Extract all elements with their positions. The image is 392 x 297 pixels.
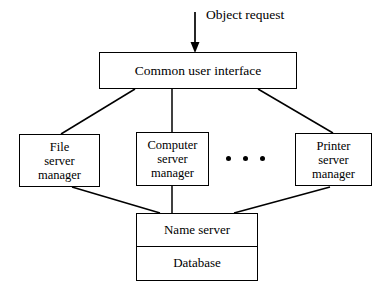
- node-computer-server-manager-line1: Computer: [148, 138, 198, 152]
- node-database[interactable]: Database: [137, 247, 257, 280]
- node-common-user-interface[interactable]: Common user interface: [99, 52, 297, 89]
- edge-interface-to-file-manager: [61, 89, 135, 134]
- node-computer-server-manager-line2: server: [157, 152, 188, 166]
- node-file-server-manager[interactable]: File server manager: [19, 134, 100, 187]
- node-file-server-manager-line1: File: [50, 140, 69, 154]
- ellipsis-dot-2: [243, 156, 248, 161]
- node-computer-server-manager[interactable]: Computer server manager: [136, 132, 209, 186]
- ellipsis-dot-3: [260, 156, 265, 161]
- object-request-label: Object request: [206, 7, 284, 23]
- ellipsis-dot-1: [226, 156, 231, 161]
- edge-printer-manager-to-name-server: [234, 187, 330, 213]
- node-name-server-stack[interactable]: Name server Database: [136, 213, 258, 281]
- node-name-server-label: Name server: [164, 223, 230, 238]
- node-common-user-interface-label: Common user interface: [135, 63, 262, 78]
- node-name-server[interactable]: Name server: [137, 214, 257, 247]
- node-printer-server-manager-line1: Printer: [316, 139, 350, 153]
- edge-interface-to-printer-manager: [258, 89, 333, 133]
- node-printer-server-manager-line2: server: [318, 153, 349, 167]
- node-computer-server-manager-line3: manager: [151, 166, 194, 180]
- node-file-server-manager-line2: server: [44, 154, 75, 168]
- node-printer-server-manager[interactable]: Printer server manager: [295, 133, 372, 186]
- architecture-diagram: Object request Common user interface Fil…: [0, 0, 392, 297]
- node-file-server-manager-line3: manager: [38, 168, 81, 182]
- node-database-label: Database: [173, 256, 221, 271]
- node-printer-server-manager-line3: manager: [312, 167, 355, 181]
- edge-file-manager-to-name-server: [72, 187, 160, 213]
